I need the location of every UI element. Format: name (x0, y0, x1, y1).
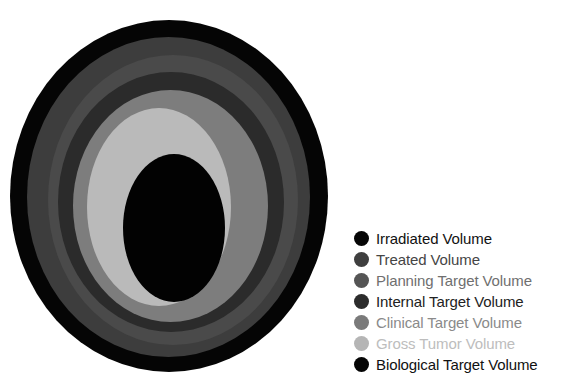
biological-target-volume-ellipse (123, 154, 225, 302)
legend-dot-icon (354, 273, 369, 288)
nested-volumes-diagram (0, 0, 340, 391)
legend-dot-icon (354, 294, 369, 309)
legend: Irradiated Volume Treated Volume Plannin… (354, 228, 538, 375)
legend-label: Internal Target Volume (376, 291, 524, 312)
legend-item-planning-target-volume: Planning Target Volume (354, 270, 538, 291)
legend-label: Clinical Target Volume (376, 312, 522, 333)
legend-dot-icon (354, 315, 369, 330)
legend-item-irradiated-volume: Irradiated Volume (354, 228, 538, 249)
legend-label: Gross Tumor Volume (376, 333, 515, 354)
legend-label: Planning Target Volume (376, 270, 532, 291)
legend-dot-icon (354, 336, 369, 351)
legend-dot-icon (354, 357, 369, 372)
legend-item-treated-volume: Treated Volume (354, 249, 538, 270)
legend-label: Irradiated Volume (376, 228, 492, 249)
legend-dot-icon (354, 252, 369, 267)
legend-label: Biological Target Volume (376, 354, 538, 375)
legend-label: Treated Volume (376, 249, 480, 270)
legend-dot-icon (354, 231, 369, 246)
legend-item-biological-target-volume: Biological Target Volume (354, 354, 538, 375)
legend-item-clinical-target-volume: Clinical Target Volume (354, 312, 538, 333)
legend-item-gross-tumor-volume: Gross Tumor Volume (354, 333, 538, 354)
legend-item-internal-target-volume: Internal Target Volume (354, 291, 538, 312)
